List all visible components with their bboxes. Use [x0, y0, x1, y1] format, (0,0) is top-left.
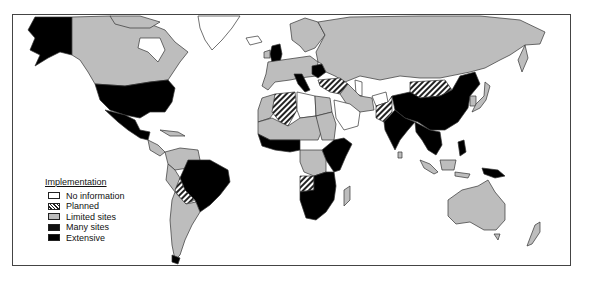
region-western-europe — [262, 56, 318, 90]
region-angola — [300, 176, 314, 192]
region-philippines — [458, 140, 466, 156]
region-central-america — [148, 140, 165, 156]
region-libya — [297, 92, 316, 118]
legend-item-limited-sites: Limited sites — [45, 212, 125, 223]
region-east-africa — [322, 138, 352, 172]
swatch-limited-sites — [48, 213, 60, 220]
region-indonesia — [420, 160, 470, 178]
legend-label: Many sites — [66, 222, 109, 233]
legend-item-extensive: Extensive — [45, 233, 125, 244]
region-ireland — [264, 50, 270, 58]
legend-title: Implementation — [45, 177, 125, 188]
swatch-extensive — [48, 234, 60, 241]
legend-item-planned: Planned — [45, 201, 125, 212]
region-alaska — [28, 17, 72, 66]
legend-label: No information — [66, 191, 125, 202]
legend-label: Limited sites — [66, 212, 116, 223]
region-papua-new-guinea — [482, 168, 505, 178]
legend-item-many-sites: Many sites — [45, 222, 125, 233]
legend: Implementation No information Planned Li… — [45, 177, 125, 243]
region-caribbean — [160, 130, 185, 136]
legend-item-no-information: No information — [45, 191, 125, 202]
region-united-kingdom — [270, 44, 282, 62]
swatch-many-sites — [48, 224, 60, 231]
region-central-africa — [300, 150, 326, 176]
region-iceland — [246, 36, 262, 45]
region-korea — [470, 96, 476, 106]
region-greenland — [198, 16, 240, 50]
region-australia — [448, 180, 505, 230]
legend-label: Extensive — [66, 233, 105, 244]
swatch-planned — [48, 203, 60, 210]
region-madagascar — [344, 186, 350, 206]
region-russia — [316, 16, 545, 82]
swatch-no-information — [48, 192, 60, 199]
region-sri-lanka — [398, 152, 402, 158]
region-new-zealand — [527, 222, 540, 246]
region-tasmania — [494, 234, 500, 240]
legend-label: Planned — [66, 201, 99, 212]
